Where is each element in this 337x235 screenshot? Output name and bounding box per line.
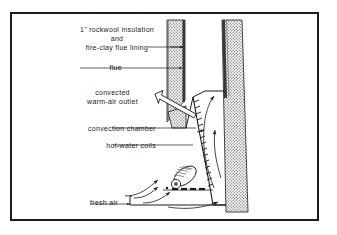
label-insulation-line1: 1" rockwool insulation xyxy=(52,25,182,34)
exterior-wall-masonry xyxy=(222,20,248,212)
label-convection-chamber: convection chamber xyxy=(46,124,156,133)
figure-container: 1" rockwool insulation and fire-clay flu… xyxy=(0,0,337,235)
label-warm-air-outlet: convected warm-air outlet xyxy=(70,88,155,106)
label-fresh-air: fresh air xyxy=(56,198,118,207)
label-flue: flue xyxy=(62,63,122,72)
convection-airflow-arrows xyxy=(197,96,221,188)
burner-assembly xyxy=(166,162,200,190)
label-insulation: 1" rockwool insulation and fire-clay flu… xyxy=(52,25,182,52)
label-hot-water-coils: hot-water coils xyxy=(54,141,156,150)
label-insulation-line2: and xyxy=(52,34,182,43)
label-insulation-line3: fire-clay flue lining xyxy=(52,43,182,52)
label-outlet-line1: convected xyxy=(70,88,155,97)
label-outlet-line2: warm-air outlet xyxy=(70,97,155,106)
